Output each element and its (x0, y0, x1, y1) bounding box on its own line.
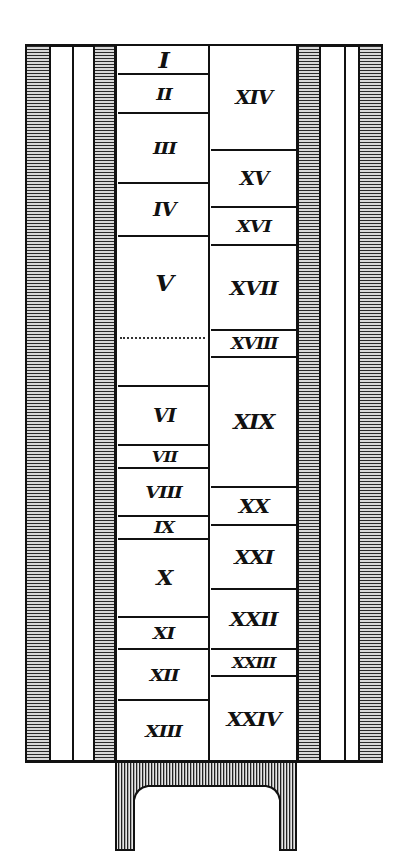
layer-xviii: XVIII (211, 329, 297, 356)
layer-label: XIII (146, 721, 182, 741)
layer-label: VII (152, 448, 177, 466)
layer-iii: III (118, 112, 210, 182)
layer-label: XXIII (232, 654, 275, 672)
layer-ix: IX (118, 515, 210, 538)
layer-xxiii: XXIII (211, 648, 297, 675)
left-wall-bottom-edge (25, 760, 117, 763)
left-wall-line (72, 46, 74, 762)
layer-xxi: XXI (211, 524, 297, 588)
layer-i: I (118, 46, 210, 73)
layer-label: XXIV (227, 708, 281, 730)
layer-label: XXII (230, 608, 278, 630)
layer-label: VIII (146, 482, 182, 502)
layer-label: XII (150, 665, 179, 685)
layer-label: XVI (237, 216, 271, 236)
layer-label: XIX (233, 410, 274, 434)
layer-xx: XX (211, 486, 297, 524)
layer-xix: XIX (211, 356, 297, 486)
right-wall-bottom-edge (297, 760, 383, 763)
layer-label: XI (153, 623, 174, 643)
right-outer-hatched-wall (358, 46, 383, 762)
layer-xi: XI (118, 616, 210, 648)
left-outer-hatched-wall (25, 46, 51, 762)
layer-label: XV (240, 168, 269, 189)
layer-label: II (156, 84, 171, 104)
layer-xiii: XIII (118, 699, 210, 760)
right-inner-hatched-wall (297, 46, 321, 762)
layer-xxiv: XXIV (211, 675, 297, 760)
left-inner-hatched-wall (93, 46, 116, 762)
layer-iv: IV (118, 182, 210, 235)
layer-xvi: XVI (211, 206, 297, 244)
layer-label: I (159, 47, 169, 73)
layer-viii: VIII (118, 467, 210, 515)
pedestal-base (112, 760, 302, 856)
layer-ii: II (118, 73, 210, 112)
layer-label: XVII (230, 277, 278, 299)
layer-label: XIV (236, 87, 273, 108)
layer-label: XXI (235, 546, 274, 568)
layer-vii: VII (118, 444, 210, 467)
layer-label: IV (153, 199, 175, 220)
layer-xii: XII (118, 648, 210, 699)
layer-label: XX (239, 495, 269, 517)
dotted-divider (120, 337, 205, 339)
layer-vi: VI (118, 385, 210, 444)
layer-label: IX (154, 518, 174, 537)
layer-label: VI (153, 405, 175, 426)
layer-v: V (118, 235, 210, 385)
layer-label: XVIII (231, 334, 278, 353)
right-wall-line (344, 46, 346, 762)
layer-xvii: XVII (211, 244, 297, 329)
layer-label: X (156, 566, 172, 590)
layer-label: V (155, 270, 173, 296)
layer-xiv: XIV (211, 46, 297, 149)
layer-xv: XV (211, 149, 297, 206)
layer-label: III (153, 138, 176, 158)
layer-x: X (118, 538, 210, 616)
layer-xxii: XXII (211, 588, 297, 648)
